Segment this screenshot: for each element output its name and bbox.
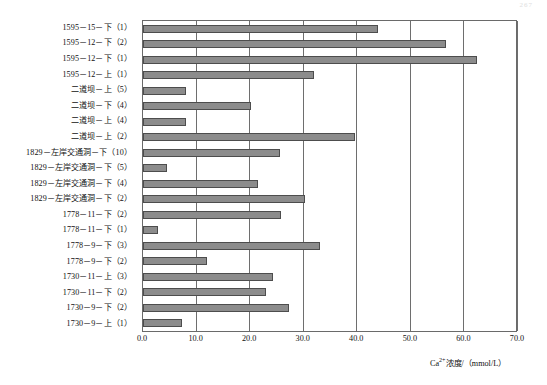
category-label: 二道坝－上（4）	[0, 114, 136, 130]
x-tick-label: 20.0	[242, 334, 256, 343]
bar-row	[143, 192, 516, 208]
bar	[143, 164, 167, 172]
bar	[143, 180, 258, 188]
bar-row	[143, 223, 516, 239]
x-axis-title-text: Ca2+浓度/（mmol/L）	[430, 359, 506, 368]
category-label: 1595－12－下（2）	[0, 36, 136, 52]
bar-row	[143, 161, 516, 177]
bar-row	[143, 52, 516, 68]
category-label: 二道坝－上（2）	[0, 129, 136, 145]
bar	[143, 304, 289, 312]
bar	[143, 319, 182, 327]
bar	[143, 133, 355, 141]
category-label: 二道坝－上（5）	[0, 82, 136, 98]
bar-row	[143, 285, 516, 301]
bar	[143, 40, 446, 48]
x-tick-label: 40.0	[349, 334, 363, 343]
bar-row	[143, 238, 516, 254]
category-label: 1730－11－上（3）	[0, 270, 136, 286]
category-axis-labels: 1595－15－下（1）1595－12－下（2）1595－12－下（1）1595…	[0, 20, 136, 332]
bar-series	[143, 21, 516, 331]
bar	[143, 118, 186, 126]
category-label: 1595－12－下（1）	[0, 51, 136, 67]
category-label: 1595－12－上（1）	[0, 67, 136, 83]
bar	[143, 257, 207, 265]
category-label: 1730－9－上（1）	[0, 316, 136, 332]
bar-row	[143, 130, 516, 146]
bar-row	[143, 300, 516, 316]
page-root: 267 1595－15－下（1）1595－12－下（2）1595－12－下（1）…	[0, 0, 547, 385]
bar	[143, 273, 273, 281]
bar	[143, 71, 314, 79]
bar-row	[143, 83, 516, 99]
bar-row	[143, 21, 516, 37]
x-tick-label: 10.0	[188, 334, 202, 343]
category-label: 二道坝－下（4）	[0, 98, 136, 114]
x-axis-title: Ca2+浓度/（mmol/L）	[430, 356, 506, 368]
bar	[143, 226, 158, 234]
bar-row	[143, 114, 516, 130]
category-label: 1595－15－下（1）	[0, 20, 136, 36]
x-tick-label: 0.0	[137, 334, 147, 343]
bar-row	[143, 99, 516, 115]
x-tick-label: 50.0	[403, 334, 417, 343]
category-label: 1778－9－下（2）	[0, 254, 136, 270]
bar	[143, 242, 320, 250]
category-label: 1778－11－下（2）	[0, 207, 136, 223]
bar-row	[143, 68, 516, 84]
x-tick-label: 60.0	[456, 334, 470, 343]
bar	[143, 87, 186, 95]
bar-chart: 1595－15－下（1）1595－12－下（2）1595－12－下（1）1595…	[0, 0, 547, 385]
bar-row	[143, 254, 516, 270]
bar-row	[143, 176, 516, 192]
bar	[143, 102, 251, 110]
category-label: 1778－9－下（3）	[0, 238, 136, 254]
category-label: 1829－左岸交通洞－下（4）	[0, 176, 136, 192]
bar-row	[143, 207, 516, 223]
x-axis-tick-labels: 0.010.020.030.040.050.060.070.0	[142, 334, 517, 350]
bar	[143, 211, 281, 219]
plot-area	[142, 20, 517, 332]
gridline	[517, 21, 518, 331]
bar	[143, 149, 280, 157]
bar	[143, 288, 266, 296]
bar-row	[143, 37, 516, 53]
bar-row	[143, 316, 516, 332]
category-label: 1730－9－下（2）	[0, 301, 136, 317]
bar-row	[143, 269, 516, 285]
bar-row	[143, 145, 516, 161]
category-label: 1829－左岸交通洞－下（10）	[0, 145, 136, 161]
bar	[143, 56, 477, 64]
category-label: 1829－左岸交通洞－下（2）	[0, 192, 136, 208]
bar	[143, 25, 378, 33]
category-label: 1730－11－下（2）	[0, 285, 136, 301]
x-tick-label: 70.0	[510, 334, 524, 343]
bar	[143, 195, 305, 203]
category-label: 1829－左岸交通洞－下（5）	[0, 160, 136, 176]
x-tick-label: 30.0	[296, 334, 310, 343]
category-label: 1778－11－下（1）	[0, 223, 136, 239]
